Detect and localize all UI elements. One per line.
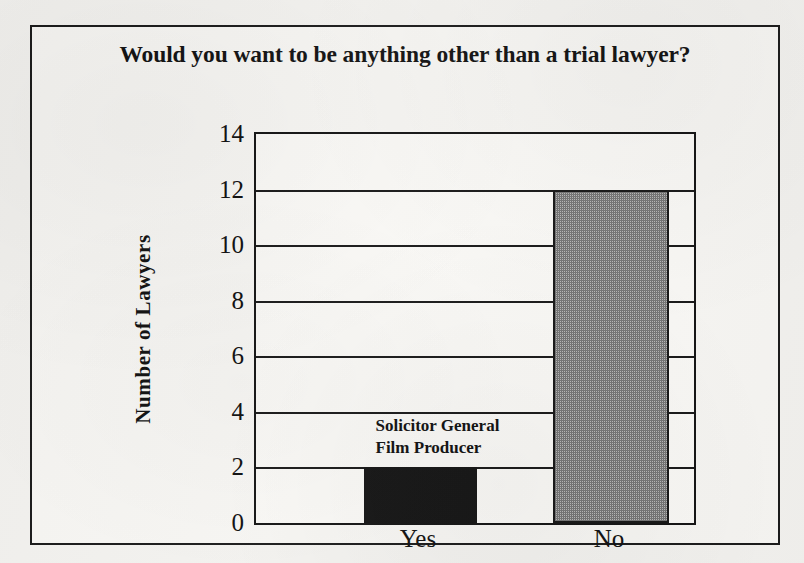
y-axis-title-label: Number of Lawyers [128,199,158,459]
x-tick-label-yes: Yes [400,525,436,553]
y-tick-label: 12 [219,176,244,204]
bar-annotation-line: Solicitor General [376,415,500,437]
y-axis-title: Number of Lawyers [128,0,158,199]
bar-annotation: Solicitor GeneralFilm Producer [376,415,500,459]
y-tick-label: 2 [232,453,245,481]
bar-yes [364,467,477,523]
y-tick-label: 0 [232,509,245,537]
y-tick-label: 8 [232,287,245,315]
plot-area: 02468101214 Solicitor GeneralFilm Produc… [254,132,696,525]
bars-layer: Solicitor GeneralFilm Producer [256,134,694,523]
y-tick-label: 10 [219,231,244,259]
bar-annotation-line: Film Producer [376,437,500,459]
x-axis-ticks: YesNo [254,525,696,563]
y-tick-label: 14 [219,120,244,148]
y-tick-label: 6 [232,342,245,370]
bar-no [553,190,669,523]
x-tick-label-no: No [594,525,625,553]
y-tick-label: 4 [232,398,245,426]
figure-frame: Would you want to be anything other than… [30,25,780,545]
